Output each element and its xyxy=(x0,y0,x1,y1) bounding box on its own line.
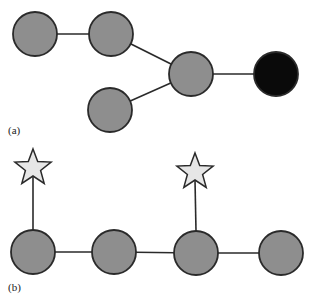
panel-b-label: (b) xyxy=(8,281,21,294)
edge-s2-b3 xyxy=(195,180,196,231)
node-a2 xyxy=(89,12,133,56)
node-a1 xyxy=(13,12,57,56)
node-a5 xyxy=(254,52,298,96)
node-a4 xyxy=(88,88,132,132)
node-b1 xyxy=(11,230,55,274)
node-b4 xyxy=(259,231,303,275)
panel-a-label: (a) xyxy=(8,124,21,137)
diagram: (a) (b) xyxy=(0,0,312,299)
node-b2 xyxy=(92,230,136,274)
node-b3 xyxy=(174,231,218,275)
node-a3 xyxy=(169,52,213,96)
